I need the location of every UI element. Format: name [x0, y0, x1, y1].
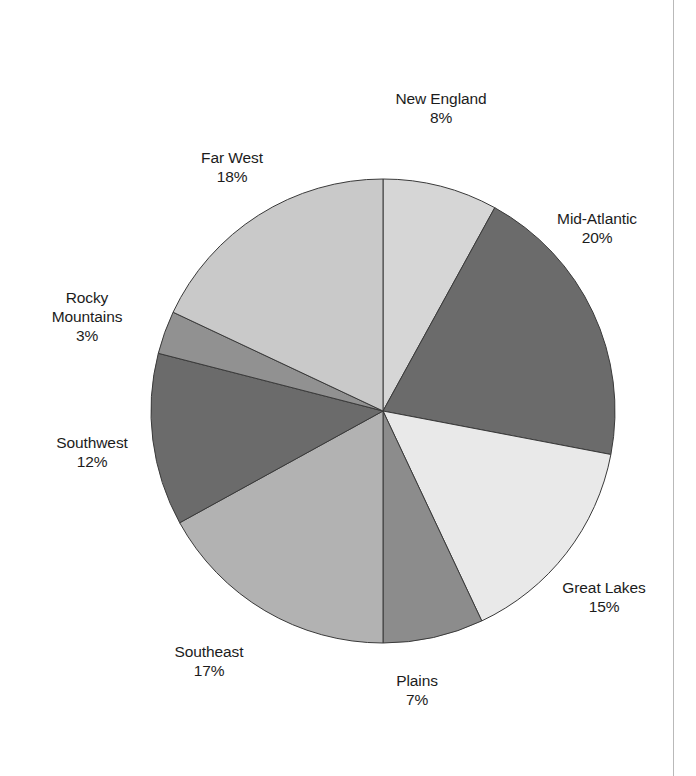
pie-label-value: 20% — [557, 228, 637, 247]
pie-label-name: Great Lakes — [562, 578, 645, 597]
pie-chart-svg — [0, 0, 696, 776]
pie-slice-group — [151, 179, 615, 643]
pie-label-name: Mid-Atlantic — [557, 209, 637, 228]
pie-label-value: 8% — [395, 108, 486, 127]
pie-label-great-lakes: Great Lakes15% — [562, 578, 645, 616]
pie-label-southeast: Southeast17% — [175, 642, 244, 680]
pie-label-name: Plains — [396, 671, 438, 690]
pie-label-far-west: Far West18% — [201, 148, 263, 186]
pie-label-value: 17% — [175, 661, 244, 680]
pie-label-name: New England — [395, 89, 486, 108]
pie-label-new-england: New England8% — [395, 89, 486, 127]
pie-label-value: 18% — [201, 167, 263, 186]
pie-label-rocky-mountains: Rocky Mountains3% — [52, 288, 123, 345]
pie-label-name: Southwest — [56, 433, 127, 452]
pie-label-value: 12% — [56, 452, 127, 471]
pie-label-value: 3% — [52, 326, 123, 345]
pie-label-name: Rocky Mountains — [52, 288, 123, 326]
page-canvas: New England8%Mid-Atlantic20%Great Lakes1… — [0, 0, 696, 776]
pie-label-southwest: Southwest12% — [56, 433, 127, 471]
pie-label-mid-atlantic: Mid-Atlantic20% — [557, 209, 637, 247]
pie-label-value: 15% — [562, 597, 645, 616]
pie-chart: New England8%Mid-Atlantic20%Great Lakes1… — [0, 0, 696, 776]
pie-label-value: 7% — [396, 690, 438, 709]
pie-label-plains: Plains7% — [396, 671, 438, 709]
pie-label-name: Far West — [201, 148, 263, 167]
pie-label-name: Southeast — [175, 642, 244, 661]
